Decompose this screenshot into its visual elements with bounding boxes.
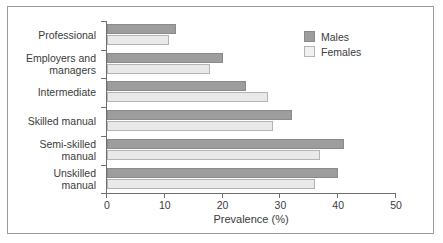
plot-area: 01020304050 ProfessionalEmployers andman… xyxy=(8,7,435,235)
legend-label-males: Males xyxy=(321,31,349,43)
bar-females-semi-skilled-manual xyxy=(107,150,320,160)
category-label: Employers andmanagers xyxy=(8,50,96,78)
category-label: Professional xyxy=(8,21,96,49)
x-tick-label-40: 40 xyxy=(332,199,344,211)
x-axis-title: Prevalence (%) xyxy=(106,213,396,225)
legend-item-males: Males xyxy=(304,29,361,44)
legend-swatch-males-icon xyxy=(304,31,315,42)
bar-females-skilled-manual xyxy=(107,121,273,131)
x-axis-line xyxy=(106,193,396,194)
bar-males-employers-and-managers xyxy=(107,53,223,63)
bar-females-professional xyxy=(107,35,169,45)
bar-row: Professional xyxy=(8,21,435,49)
bar-females-unskilled-manual xyxy=(107,179,315,189)
bar-row: Unskilledmanual xyxy=(8,165,435,193)
legend-label-females: Females xyxy=(321,46,361,58)
x-tick-30 xyxy=(279,193,280,198)
x-tick-label-10: 10 xyxy=(159,199,171,211)
x-tick-label-30: 30 xyxy=(275,199,287,211)
bar-males-intermediate xyxy=(107,81,246,91)
bar-row: Skilled manual xyxy=(8,107,435,135)
chart-frame: 01020304050 ProfessionalEmployers andman… xyxy=(7,6,434,234)
bar-males-skilled-manual xyxy=(107,110,292,120)
category-label: Unskilledmanual xyxy=(8,165,96,193)
bar-row: Semi-skilledmanual xyxy=(8,136,435,164)
bar-females-employers-and-managers xyxy=(107,64,210,74)
category-label: Skilled manual xyxy=(8,107,96,135)
bar-females-intermediate xyxy=(107,92,268,102)
legend-swatch-females-icon xyxy=(304,46,315,57)
x-tick-20 xyxy=(222,193,223,198)
category-label: Intermediate xyxy=(8,78,96,106)
bar-males-semi-skilled-manual xyxy=(107,139,344,149)
chart-legend: Males Females xyxy=(304,29,361,59)
legend-item-females: Females xyxy=(304,44,361,59)
x-tick-label-50: 50 xyxy=(390,199,402,211)
x-tick-label-20: 20 xyxy=(217,199,229,211)
x-tick-50 xyxy=(395,193,396,198)
x-tick-label-0: 0 xyxy=(104,199,110,211)
bar-males-unskilled-manual xyxy=(107,168,338,178)
bar-males-professional xyxy=(107,24,176,34)
x-tick-40 xyxy=(337,193,338,198)
x-tick-10 xyxy=(164,193,165,198)
x-tick-0 xyxy=(106,193,107,198)
category-label: Semi-skilledmanual xyxy=(8,136,96,164)
bar-row: Intermediate xyxy=(8,78,435,106)
bar-row: Employers andmanagers xyxy=(8,50,435,78)
